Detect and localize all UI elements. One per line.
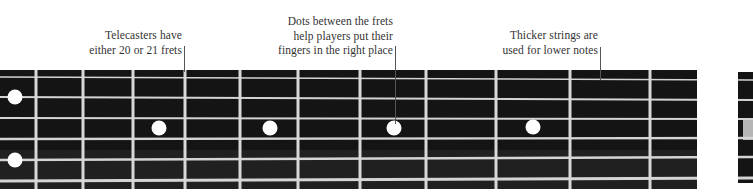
fret-marker-dot (8, 90, 23, 105)
caption-line: used for lower notes (502, 43, 598, 58)
fret-wire (297, 70, 300, 189)
fret-wire (649, 70, 652, 189)
caption-fret-count: Telecasters have either 20 or 21 frets (89, 28, 182, 57)
page-margin (0, 189, 753, 196)
telecaster-fretboard-illustration: Telecasters have either 20 or 21 frets D… (0, 0, 753, 196)
caption-line: Thicker strings are (502, 28, 598, 43)
fret-wire (359, 70, 362, 189)
fret-marker-dot (8, 153, 23, 168)
fret-marker-dot (152, 121, 167, 136)
leader-line-fret-dots (395, 46, 396, 124)
caption-line: either 20 or 21 frets (89, 43, 182, 58)
caption-line: help players put their (278, 29, 393, 44)
fret-marker-dot (526, 120, 541, 135)
nut-gap (697, 68, 738, 191)
fret-wire (239, 70, 242, 189)
caption-line: Dots between the frets (278, 14, 393, 29)
caption-line: Telecasters have (89, 28, 182, 43)
leader-line-fret-count (184, 46, 185, 72)
fret-marker-dot (263, 121, 278, 136)
guitar-string (0, 138, 753, 139)
fret-wire (495, 70, 498, 189)
caption-fret-dots: Dots between the frets help players put … (278, 14, 393, 58)
fret-wire (35, 70, 38, 189)
fretboard-shading (0, 150, 697, 189)
guitar-string (0, 118, 753, 119)
fret-wire (184, 70, 187, 189)
fret-wire (132, 70, 135, 189)
fret-wire (569, 70, 572, 189)
fret-wire (425, 70, 428, 189)
fret-wire (82, 70, 85, 189)
fret-marker-dot (387, 121, 402, 136)
caption-line: fingers in the right place (278, 43, 393, 58)
leader-line-string-thickness (600, 47, 601, 80)
caption-string-thickness: Thicker strings are used for lower notes (502, 28, 598, 57)
